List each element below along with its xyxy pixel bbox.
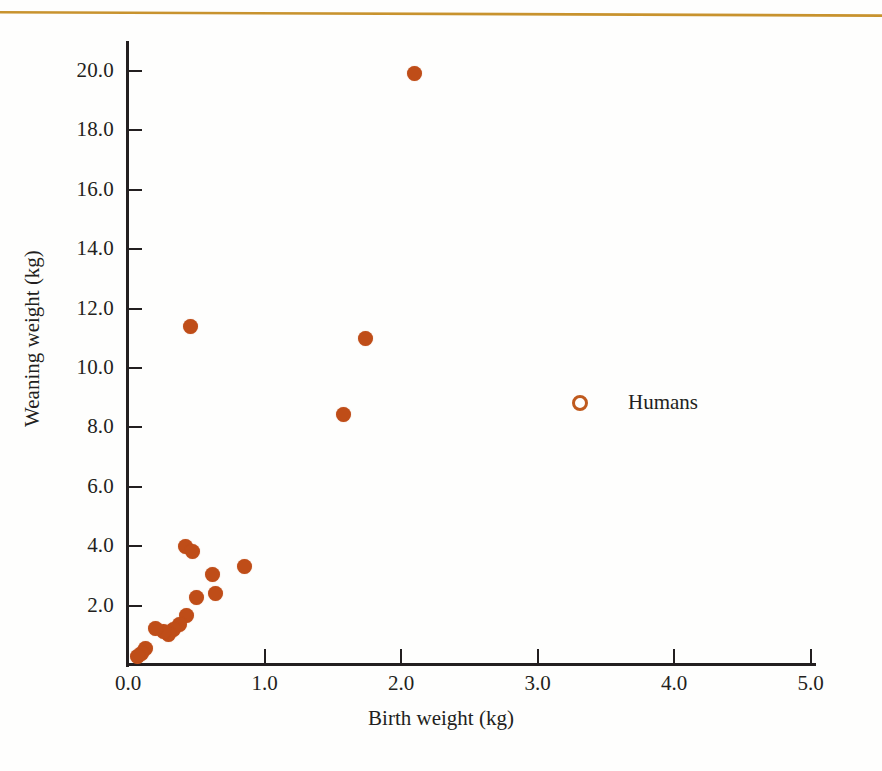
y-tick-label: 20.0 bbox=[52, 60, 114, 81]
x-tick-label: 5.0 bbox=[776, 672, 846, 694]
scatter-plot-figure: 2.04.06.08.010.012.014.016.018.020.0 0.0… bbox=[0, 0, 882, 771]
x-tick-label: 3.0 bbox=[503, 672, 573, 694]
y-tick bbox=[129, 189, 142, 191]
decorative-top-rule bbox=[0, 10, 882, 18]
data-point bbox=[183, 319, 198, 334]
y-tick-label: 14.0 bbox=[52, 238, 114, 259]
legend-label-humans: Humans bbox=[628, 390, 698, 415]
x-tick-label: 1.0 bbox=[230, 672, 300, 694]
x-axis-line bbox=[126, 663, 816, 666]
data-point bbox=[358, 331, 373, 346]
y-tick bbox=[129, 367, 142, 369]
y-tick-label: 10.0 bbox=[52, 357, 114, 378]
y-tick-label: 18.0 bbox=[52, 119, 114, 140]
y-tick-label: 2.0 bbox=[52, 595, 114, 616]
y-axis-line bbox=[126, 41, 129, 667]
x-tick bbox=[673, 649, 675, 663]
x-axis-title: Birth weight (kg) bbox=[0, 706, 882, 731]
x-tick bbox=[400, 649, 402, 663]
data-point bbox=[205, 567, 220, 582]
y-tick bbox=[129, 486, 142, 488]
x-tick-label: 0.0 bbox=[93, 672, 163, 694]
y-tick bbox=[129, 70, 142, 72]
legend-marker-humans-icon bbox=[572, 395, 588, 411]
x-tick-label: 2.0 bbox=[366, 672, 436, 694]
y-tick bbox=[129, 545, 142, 547]
y-tick-label: 8.0 bbox=[52, 416, 114, 437]
y-tick-label: 4.0 bbox=[52, 535, 114, 556]
y-tick bbox=[129, 426, 142, 428]
x-tick-label: 4.0 bbox=[639, 672, 709, 694]
data-point bbox=[336, 407, 351, 422]
y-tick-label: 6.0 bbox=[52, 476, 114, 497]
y-tick bbox=[129, 248, 142, 250]
x-tick bbox=[264, 649, 266, 663]
data-point bbox=[237, 559, 252, 574]
data-point bbox=[208, 586, 223, 601]
y-tick-label: 12.0 bbox=[52, 298, 114, 319]
y-tick-label: 16.0 bbox=[52, 179, 114, 200]
x-tick bbox=[810, 649, 812, 663]
data-point bbox=[407, 66, 422, 81]
chart-legend: Humans bbox=[572, 390, 698, 415]
y-tick bbox=[129, 129, 142, 131]
data-point bbox=[189, 590, 204, 605]
data-point bbox=[148, 621, 163, 636]
data-point bbox=[130, 649, 145, 664]
data-point bbox=[185, 544, 200, 559]
y-axis-title: Weaning weight (kg) bbox=[20, 189, 45, 489]
y-tick bbox=[129, 308, 142, 310]
x-tick bbox=[537, 649, 539, 663]
y-tick bbox=[129, 605, 142, 607]
